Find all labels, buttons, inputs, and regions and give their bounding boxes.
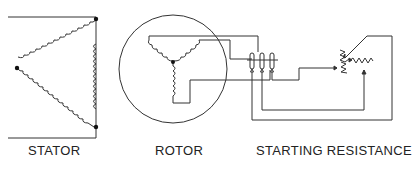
rotor-section (119, 15, 270, 123)
stator-node-left (15, 66, 19, 70)
stator-section (8, 17, 96, 138)
rotor-label: ROTOR (155, 143, 203, 158)
starting-resistance-label: STARTING RESISTANCE (256, 143, 412, 158)
stator-node-bottom (94, 125, 98, 129)
starting-resistance (334, 50, 373, 74)
slip-rings (247, 36, 392, 120)
stator-node-top (94, 17, 98, 21)
rotor-neutral-node (171, 60, 175, 64)
stator-label: STATOR (28, 143, 80, 158)
